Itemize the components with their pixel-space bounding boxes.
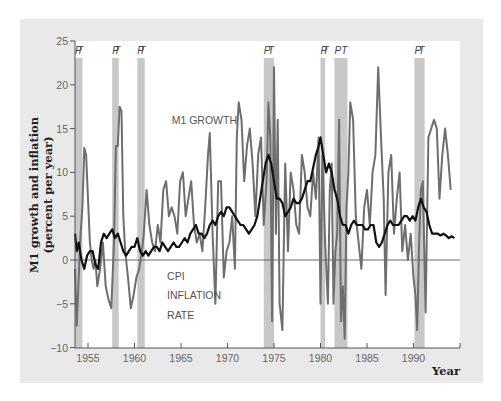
x-tick-label: 1985 (355, 352, 379, 364)
x-tick-label: 1960 (123, 352, 147, 364)
trough-label: T (114, 45, 121, 56)
series-annotation: CPI (167, 270, 185, 282)
trough-label: T (341, 45, 348, 56)
x-tick-label: 1965 (169, 352, 193, 364)
y-tick-label: 5 (62, 210, 68, 222)
x-tick-label: 1980 (309, 352, 333, 364)
series-annotation: M1 GROWTH (172, 114, 237, 126)
y-tick-label: −5 (56, 298, 68, 310)
y-tick-label: 20 (56, 79, 68, 91)
trough-label: T (419, 45, 426, 56)
y-axis-label-line1: M1 growth and inflation (27, 116, 41, 273)
series-annotation: RATE (167, 309, 194, 321)
y-axis-label-line2: (percent per year) (41, 136, 55, 253)
trough-label: T (322, 45, 329, 56)
x-tick-label: 1955 (76, 352, 100, 364)
y-tick-label: −10 (50, 342, 68, 354)
trough-label: T (268, 45, 275, 56)
x-axis-label: Year (431, 364, 461, 378)
trough-label: T (139, 45, 146, 56)
y-axis-label: M1 growth and inflation (percent per yea… (27, 116, 55, 273)
y-tick-label: 15 (56, 123, 68, 135)
x-tick-label: 1990 (402, 352, 426, 364)
x-tick-label: 1975 (262, 352, 286, 364)
y-tick-label: 25 (56, 35, 68, 47)
chart: PTPTPTPTPTPTPT −10−50510152025 195519601… (0, 0, 501, 401)
x-tick-label: 1970 (216, 352, 240, 364)
y-tick-label: 0 (62, 254, 68, 266)
y-tick-label: 10 (56, 166, 68, 178)
series-annotation: INFLATION (167, 289, 221, 301)
trough-label: T (77, 45, 84, 56)
recession-band (137, 58, 144, 348)
